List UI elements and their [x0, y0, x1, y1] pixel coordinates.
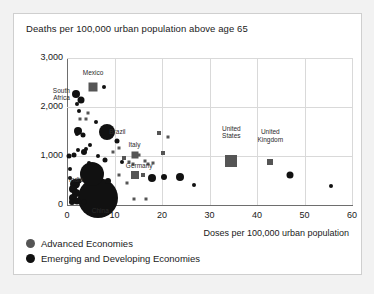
data-point-germany [131, 171, 139, 179]
data-point [80, 133, 85, 138]
data-point [132, 198, 135, 201]
data-point [146, 162, 149, 165]
annotation-label: Mexico [83, 69, 104, 77]
data-point [77, 109, 81, 113]
data-point [78, 117, 81, 120]
chart-legend: Advanced Economies Emerging and Developi… [26, 236, 200, 266]
x-tick-label: 0 [64, 210, 69, 220]
data-point [138, 154, 141, 157]
data-point-brazil [99, 124, 115, 140]
gridline-vertical [305, 58, 306, 205]
data-point [329, 184, 333, 188]
data-point [88, 143, 92, 147]
data-point-united-kingdom [267, 159, 273, 165]
data-point [78, 96, 85, 103]
data-point [122, 156, 126, 160]
data-point [112, 197, 116, 201]
data-point [145, 198, 148, 201]
legend-label-emerging: Emerging and Developing Economies [41, 253, 200, 264]
annotation-label: United Kingdom [257, 128, 283, 143]
x-axis-title: Doses per 100,000 urban population [203, 228, 349, 238]
gridline-vertical [210, 58, 211, 205]
legend-item-emerging: Emerging and Developing Economies [26, 251, 200, 266]
data-point [94, 120, 98, 124]
data-point [120, 160, 124, 164]
data-point [76, 148, 80, 152]
x-tick-label: 60 [347, 210, 357, 220]
data-point [96, 154, 100, 158]
data-point [118, 173, 121, 176]
data-point [166, 136, 169, 139]
gridline-vertical [257, 58, 258, 205]
data-point [115, 139, 120, 144]
data-point [85, 117, 88, 120]
data-point [76, 178, 81, 183]
data-point [152, 161, 155, 164]
data-point [68, 176, 72, 180]
data-point [161, 151, 165, 155]
legend-label-advanced: Advanced Economies [41, 238, 133, 249]
data-point [141, 173, 145, 177]
data-point [105, 178, 111, 184]
data-point [80, 162, 104, 186]
data-point [102, 158, 107, 163]
x-tick-label: 40 [252, 210, 262, 220]
legend-swatch-advanced-icon [26, 239, 35, 248]
data-point [131, 163, 134, 166]
data-point [157, 131, 161, 135]
data-point [126, 182, 129, 185]
data-point [82, 200, 87, 205]
gridline-vertical [352, 58, 353, 205]
plot-area: MexicoSouth AfricaBrazilItalyGermanyIndi… [67, 58, 352, 205]
y-tick-label: 1,000 [40, 150, 63, 160]
data-point [102, 85, 106, 89]
annotation-label: Italy [128, 141, 140, 149]
x-tick-label: 20 [157, 210, 167, 220]
data-point [148, 174, 156, 182]
data-point [68, 167, 72, 171]
data-point [287, 171, 294, 178]
data-point [111, 151, 114, 154]
data-point [161, 174, 167, 180]
data-point-united-states [225, 155, 237, 167]
data-point [87, 161, 91, 165]
data-point [71, 152, 76, 157]
data-point-mexico [89, 83, 98, 92]
legend-item-advanced: Advanced Economies [26, 236, 200, 251]
data-point [86, 111, 89, 114]
data-point [192, 183, 196, 187]
data-point [84, 147, 88, 151]
legend-swatch-emerging-icon [26, 254, 35, 263]
y-tick-label: 3,000 [40, 52, 63, 62]
annotation-label: United States [222, 125, 241, 140]
x-tick-label: 10 [109, 210, 119, 220]
data-point [117, 147, 120, 150]
data-point [176, 173, 184, 181]
x-tick-label: 50 [299, 210, 309, 220]
data-point [69, 199, 75, 205]
y-tick-label: 0 [58, 199, 63, 209]
x-tick-label: 30 [204, 210, 214, 220]
y-tick-label: 2,000 [40, 101, 63, 111]
chart-card: Deaths per 100,000 urban population abov… [13, 13, 362, 275]
gridline-vertical [162, 58, 163, 205]
